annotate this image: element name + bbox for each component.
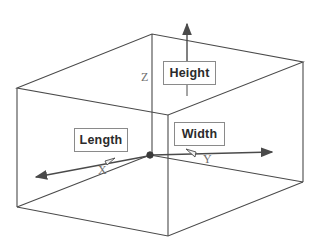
callout-height: Height [163,61,216,85]
box-bottom-face [17,155,303,236]
width-axis-arrow [152,152,272,155]
bottom-edge-back-right [150,155,303,182]
box-wireframe-svg [0,0,319,251]
origin-point [147,152,153,158]
axis-label-y: Y [203,152,212,167]
top-face-outline [17,34,303,115]
length-axis-arrow [36,156,148,177]
dimension-diagram: Z X Y Length Width Height [0,0,319,251]
bottom-edge-back-left [17,155,150,207]
width-axis-tick-arrowhead [186,149,196,157]
callout-width: Width [174,122,225,146]
box-top-face [17,34,303,115]
axis-arrows [36,24,272,177]
axis-label-z: Z [141,70,148,85]
axis-label-x: X [98,163,107,178]
box-side-edges [17,34,303,236]
callout-length: Length [74,128,128,152]
